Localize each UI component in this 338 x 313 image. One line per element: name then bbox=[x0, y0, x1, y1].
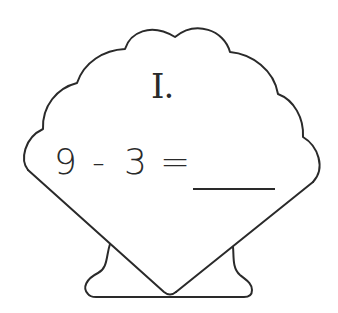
minus-operator: - bbox=[92, 140, 105, 184]
shell-left-side bbox=[28, 170, 176, 295]
worksheet-card: I. 9 - 3 = bbox=[0, 0, 338, 313]
answer-blank-line bbox=[193, 188, 275, 190]
problem-number-label: I. bbox=[151, 66, 173, 106]
operand-a: 9 bbox=[54, 140, 77, 184]
equals-sign: = bbox=[160, 140, 190, 184]
operand-b: 3 bbox=[124, 140, 147, 184]
shell-right-side bbox=[176, 182, 313, 292]
